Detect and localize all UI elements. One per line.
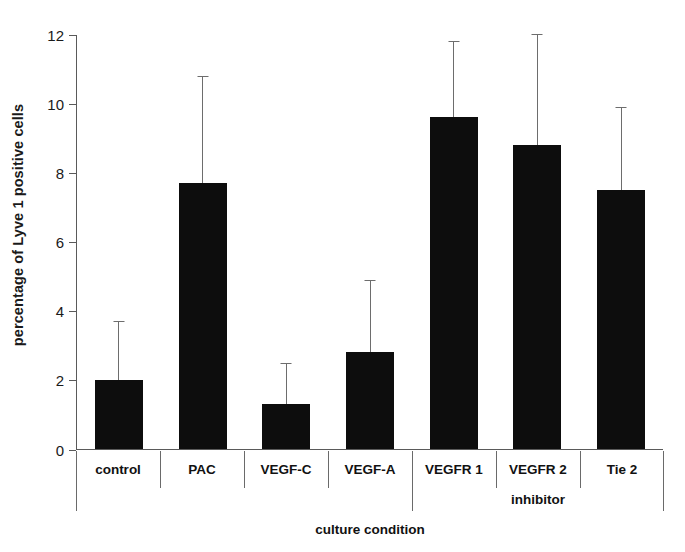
x-axis-category-vegf-c: VEGF-C: [244, 451, 328, 488]
error-bar: [532, 34, 543, 145]
bar-group: [496, 35, 580, 450]
x-axis-category-vegfr-1: VEGFR 1: [412, 451, 496, 488]
bar[interactable]: [513, 145, 561, 449]
error-bar-stem: [370, 280, 371, 353]
y-axis-tick-label: 12: [47, 27, 69, 42]
y-axis-tick-label: 10: [47, 96, 69, 111]
bar-series: [77, 35, 663, 450]
error-bar: [113, 321, 124, 380]
y-axis-tick-mark: [69, 173, 76, 174]
category-divider: [160, 451, 161, 488]
y-axis-title: percentage of Lyve 1 positive cells: [0, 0, 36, 450]
y-axis-tick-label: 0: [56, 442, 69, 457]
y-axis-tick-mark: [69, 242, 76, 243]
y-axis-tick-mark: [69, 450, 76, 451]
error-bar-stem: [537, 34, 538, 145]
x-axis-category-pac: PAC: [160, 451, 244, 488]
bar-group: [412, 35, 496, 450]
bar[interactable]: [262, 404, 310, 449]
group-divider: [412, 451, 413, 511]
y-axis-tick-mark: [69, 311, 76, 312]
y-axis-tick-mark: [69, 380, 76, 381]
y-axis-tick-label: 4: [56, 304, 69, 319]
error-bar: [448, 41, 459, 117]
error-bar-stem: [286, 363, 287, 405]
bar-group: [244, 35, 328, 450]
bar[interactable]: [430, 117, 478, 449]
y-axis-tick-label: 2: [56, 373, 69, 388]
error-bar-cap: [281, 363, 292, 364]
plot-area: [76, 35, 663, 450]
bar[interactable]: [95, 380, 143, 449]
bar[interactable]: [597, 190, 645, 449]
category-divider: [244, 451, 245, 488]
y-axis-tick-mark: [69, 35, 76, 36]
label-table-right-border: [663, 451, 664, 511]
error-bar-stem: [453, 41, 454, 117]
x-axis-category-vegfr-2: VEGFR 2: [496, 451, 580, 488]
x-axis-category-vegf-a: VEGF-A: [328, 451, 412, 488]
x-axis-category-row: controlPACVEGF-CVEGF-AVEGFR 1VEGFR 2Tie …: [76, 451, 664, 488]
bar-group: [328, 35, 412, 450]
x-axis-group-row: inhibitor: [76, 488, 664, 511]
bar-group: [77, 35, 161, 450]
category-divider: [328, 451, 329, 488]
error-bar-stem: [118, 321, 119, 380]
bar[interactable]: [179, 183, 227, 449]
y-axis-ticks: 024681012: [36, 0, 76, 552]
error-bar-cap: [532, 34, 543, 35]
bar-group: [579, 35, 663, 450]
x-axis-category-tie-2: Tie 2: [580, 451, 664, 488]
category-divider: [496, 451, 497, 488]
x-axis-label-table: controlPACVEGF-CVEGF-AVEGFR 1VEGFR 2Tie …: [76, 451, 664, 511]
error-bar-cap: [616, 107, 627, 108]
error-bar: [281, 363, 292, 405]
error-bar-cap: [113, 321, 124, 322]
error-bar: [197, 76, 208, 183]
label-table-left-border: [76, 451, 77, 511]
error-bar-cap: [448, 41, 459, 42]
y-axis-tick-label: 8: [56, 165, 69, 180]
y-axis-title-text: percentage of Lyve 1 positive cells: [10, 104, 26, 346]
error-bar-cap: [197, 76, 208, 77]
error-bar-stem: [621, 107, 622, 190]
error-bar-stem: [202, 76, 203, 183]
category-divider: [580, 451, 581, 488]
error-bar: [616, 107, 627, 190]
bar-chart-figure: percentage of Lyve 1 positive cells 0246…: [0, 0, 685, 552]
x-axis-title: culture condition: [76, 518, 664, 540]
x-axis-category-control: control: [76, 451, 160, 488]
bar[interactable]: [346, 352, 394, 449]
y-axis-tick-label: 6: [56, 235, 69, 250]
error-bar: [365, 280, 376, 353]
error-bar-cap: [365, 280, 376, 281]
group-label-inhibitor: inhibitor: [412, 488, 664, 511]
y-axis-tick-mark: [69, 104, 76, 105]
bar-group: [161, 35, 245, 450]
